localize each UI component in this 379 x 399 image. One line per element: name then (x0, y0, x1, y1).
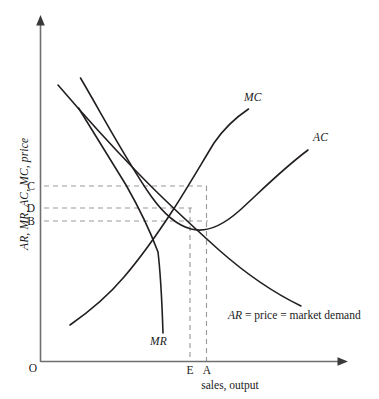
ar-annotation-symbol: AR (227, 309, 242, 321)
ar-annotation-rest: = price = market demand (242, 309, 361, 322)
x-axis-arrowhead (338, 357, 349, 366)
y-tick-label-C: C (27, 180, 35, 192)
y-tick-labels: C D B (27, 180, 36, 227)
x-tick-labels: E A (186, 364, 211, 376)
curves-group (58, 78, 308, 333)
origin-label: O (29, 362, 37, 374)
y-tick-label-B: B (27, 215, 35, 227)
curve-ar (58, 85, 301, 306)
ar-annotation-text: AR = price = market demand (227, 309, 361, 322)
economics-diagram-figure: AR, MR, AC, MC, price sales, output O C … (0, 0, 379, 399)
ar-annotation: AR = price = market demand (227, 309, 361, 322)
diagram-canvas: AR, MR, AC, MC, price sales, output O C … (0, 0, 379, 399)
curve-mc (70, 109, 249, 325)
x-tick-label-E: E (186, 364, 193, 376)
curve-label-mr: MR (149, 335, 167, 347)
y-axis-title: AR, MR, AC, MC, price (18, 138, 31, 251)
y-tick-label-D: D (27, 202, 35, 214)
x-tick-label-A: A (203, 364, 212, 376)
curve-label-ac: AC (312, 131, 328, 143)
y-axis-arrowhead (36, 15, 45, 26)
curve-ac (81, 78, 309, 230)
curve-label-mc: MC (243, 91, 262, 103)
x-axis-title: sales, output (201, 379, 259, 392)
